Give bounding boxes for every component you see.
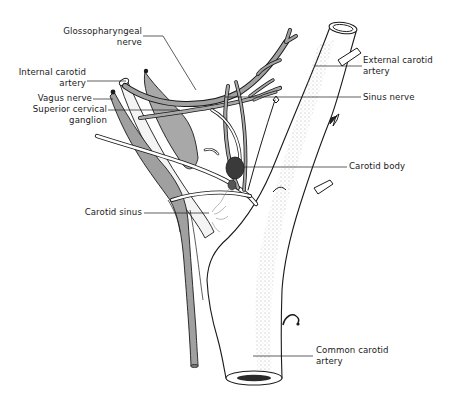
label-text: ganglion — [14, 115, 107, 126]
label-text: External carotid — [363, 55, 433, 66]
carotid-artery-trunk — [207, 21, 358, 385]
label-superior-cervical-ganglion: Superior cervical ganglion — [14, 104, 107, 126]
label-vagus-nerve: Vagus nerve — [20, 93, 92, 104]
label-glossopharyngeal-nerve: Glossopharyngeal nerve — [48, 26, 142, 48]
label-external-carotid-artery: External carotid artery — [363, 55, 433, 77]
label-text: Internal carotid — [6, 67, 86, 78]
label-carotid-body: Carotid body — [349, 161, 405, 172]
carotid-body — [226, 157, 244, 190]
label-common-carotid-artery: Common carotid artery — [316, 345, 389, 367]
label-text: Carotid sinus — [70, 207, 142, 218]
label-text: Vagus nerve — [20, 93, 92, 104]
label-text: nerve — [48, 37, 142, 48]
label-carotid-sinus: Carotid sinus — [70, 207, 142, 218]
anatomy-diagram: Glossopharyngeal nerve Internal carotid … — [0, 0, 449, 397]
label-text: Common carotid — [316, 345, 389, 356]
label-internal-carotid-artery: Internal carotid artery — [6, 67, 86, 89]
label-text: artery — [6, 78, 86, 89]
label-text: Sinus nerve — [363, 92, 415, 103]
label-text: Carotid body — [349, 161, 405, 172]
label-sinus-nerve: Sinus nerve — [363, 92, 415, 103]
label-text: Glossopharyngeal — [48, 26, 142, 37]
label-text: artery — [363, 66, 433, 77]
label-text: artery — [316, 356, 389, 367]
label-text: Superior cervical — [14, 104, 107, 115]
